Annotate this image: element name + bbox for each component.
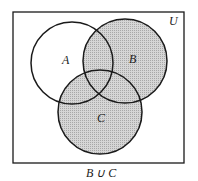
set-b-label: B bbox=[129, 52, 137, 66]
caption: B ∪ C bbox=[86, 166, 117, 180]
set-c-label: C bbox=[97, 111, 106, 125]
universe-label: U bbox=[169, 14, 179, 28]
venn-diagram: A B C U B ∪ C bbox=[0, 0, 198, 181]
set-a-label: A bbox=[61, 53, 70, 67]
